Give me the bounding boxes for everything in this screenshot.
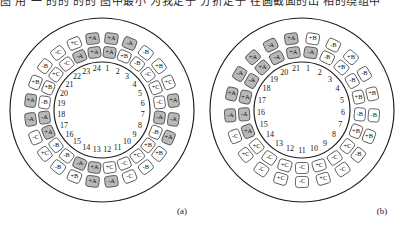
slot-cell-label: +A bbox=[258, 63, 267, 70]
slot-number: 12 bbox=[286, 144, 294, 153]
slot-cell-label: +A bbox=[244, 127, 253, 134]
slot-cell-label: +A bbox=[90, 163, 99, 170]
slot-cell-label: +A bbox=[88, 177, 97, 184]
slot-group[interactable]: -A-A7 bbox=[141, 110, 180, 126]
slot-cell-label: -A bbox=[76, 159, 83, 166]
slot-cell-label: -B bbox=[143, 48, 149, 55]
slot-number: 1 bbox=[306, 64, 310, 73]
slot-group[interactable]: -A+B2 bbox=[116, 36, 138, 76]
slot-cell-label: +B bbox=[144, 141, 152, 148]
slot-cell-label: -B bbox=[53, 141, 59, 148]
figure-stage: 图 用 一 的的 的的 图中最小 为我定子 分折定子 在圆截面的出 相的绕组中 … bbox=[0, 0, 408, 241]
slot-number: 7 bbox=[141, 110, 145, 119]
slot-cell-label: +B bbox=[338, 63, 346, 70]
slot-number: 15 bbox=[260, 120, 268, 129]
slot-group[interactable]: -C+A15 bbox=[227, 120, 267, 145]
slot-number: 12 bbox=[103, 145, 111, 154]
figure-a-stator-diagram: +A+A1-A+B2-B-B3+B-C4+C+C5+A-C6-A-A7+A-B8… bbox=[4, 12, 200, 208]
slot-cell-label: -C bbox=[121, 159, 127, 166]
slot-group[interactable]: +A+A17 bbox=[225, 86, 266, 104]
slot-cell-label: -A bbox=[108, 177, 115, 184]
slot-number: 16 bbox=[257, 108, 265, 117]
slot-group[interactable]: +A+A13 bbox=[85, 145, 101, 187]
slot-cell-label: +A bbox=[164, 133, 173, 140]
slot-cell-label: -A bbox=[27, 115, 34, 122]
slot-cell-label: +C bbox=[277, 174, 285, 181]
slot-cell-label: +C bbox=[165, 78, 173, 85]
slot-group[interactable]: -B-B6 bbox=[341, 107, 380, 122]
slot-cell-label: +A bbox=[228, 89, 237, 96]
slot-cell-label: +A bbox=[27, 96, 36, 103]
slot-cell-label: +C bbox=[319, 174, 327, 181]
slot-number: 1 bbox=[105, 64, 109, 73]
slot-cell-label: -C bbox=[156, 98, 162, 105]
slot-cell-label: +A bbox=[105, 48, 114, 55]
slot-cell-label: +C bbox=[52, 70, 60, 77]
slot-cell-label: -B bbox=[371, 111, 377, 118]
slot-number: 20 bbox=[60, 89, 68, 98]
slot-number: 17 bbox=[258, 96, 266, 105]
slot-cell-label: +B bbox=[120, 52, 128, 59]
figure-b-svg: +B-A1-B-B2+B+B3-B-B4+B+B5-B-B6+B+B7-B+C8… bbox=[204, 12, 400, 208]
slot-cell-label: +C bbox=[71, 39, 79, 46]
slot-cell-label: +C bbox=[281, 161, 289, 168]
slot-cell-label: -C bbox=[63, 59, 69, 66]
slot-cell-label: +B bbox=[347, 53, 355, 60]
slot-group[interactable]: -A+C12 bbox=[103, 145, 119, 187]
stator-outer-circle bbox=[210, 18, 394, 202]
slot-cell-label: -B bbox=[349, 76, 355, 83]
slot-cell-label: +A bbox=[249, 53, 258, 60]
slot-cell-label: +C bbox=[152, 83, 160, 90]
slot-cell-label: -A bbox=[41, 113, 48, 120]
caption-b: (b) bbox=[352, 206, 408, 216]
slot-cell-label: -C bbox=[126, 172, 132, 179]
slot-cell-label: +B bbox=[309, 34, 317, 41]
slot-group[interactable]: +A-C6 bbox=[141, 93, 180, 109]
slot-cell-label: +A bbox=[241, 93, 250, 100]
slot-number: 23 bbox=[82, 67, 90, 76]
slot-cell-label: -A bbox=[241, 110, 248, 117]
slot-cell-label: -A bbox=[307, 48, 314, 55]
stator-bore-circle bbox=[54, 62, 150, 158]
caption-a: (a) bbox=[152, 206, 212, 216]
slot-number: 18 bbox=[57, 110, 65, 119]
slot-number: 17 bbox=[60, 121, 68, 130]
slot-cell-label: -B bbox=[330, 41, 336, 48]
slot-number: 2 bbox=[116, 67, 120, 76]
slot-cell-label: -C bbox=[258, 165, 264, 172]
slot-cell-label: +B bbox=[368, 89, 376, 96]
slot-group[interactable]: -C-C11 bbox=[296, 146, 309, 188]
slot-cell-label: -B bbox=[152, 128, 158, 135]
slot-cell-label: -C bbox=[55, 48, 61, 55]
slot-cell-label: -A bbox=[170, 115, 177, 122]
slot-number: 22 bbox=[73, 72, 81, 81]
slot-cell-label: -C bbox=[232, 132, 238, 139]
slot-cell-label: +B bbox=[44, 83, 52, 90]
slot-number: 7 bbox=[338, 120, 342, 129]
slot-cell-label: +C bbox=[343, 142, 351, 149]
slot-cell-label: -A bbox=[273, 53, 280, 60]
slot-cell-label: -C bbox=[339, 165, 345, 172]
slot-number: 9 bbox=[323, 139, 327, 148]
slot-cell-label: +B bbox=[355, 93, 363, 100]
slot-number: 3 bbox=[328, 75, 332, 84]
slot-cell-label: +C bbox=[253, 142, 261, 149]
slot-number: 11 bbox=[114, 143, 122, 152]
slot-number: 21 bbox=[292, 64, 300, 73]
slot-cell-label: +A bbox=[107, 34, 116, 41]
slot-number: 2 bbox=[318, 68, 322, 77]
slot-cell-label: +A bbox=[44, 128, 53, 135]
slot-cell-label: -C bbox=[266, 153, 272, 160]
slot-number: 10 bbox=[310, 144, 318, 153]
slot-cell-label: -C bbox=[145, 70, 151, 77]
slot-cell-label: +A bbox=[287, 34, 296, 41]
slot-number: 8 bbox=[138, 121, 142, 130]
slot-cell-label: -A bbox=[236, 69, 243, 76]
slot-cell-label: -C bbox=[331, 153, 337, 160]
slot-number: 16 bbox=[65, 130, 73, 139]
slot-number: 18 bbox=[262, 84, 270, 93]
slot-number: 13 bbox=[93, 145, 101, 154]
slot-cell-label: +B bbox=[155, 149, 163, 156]
slot-cell-label: -B bbox=[42, 62, 48, 69]
slot-cell-label: +B bbox=[365, 132, 373, 139]
